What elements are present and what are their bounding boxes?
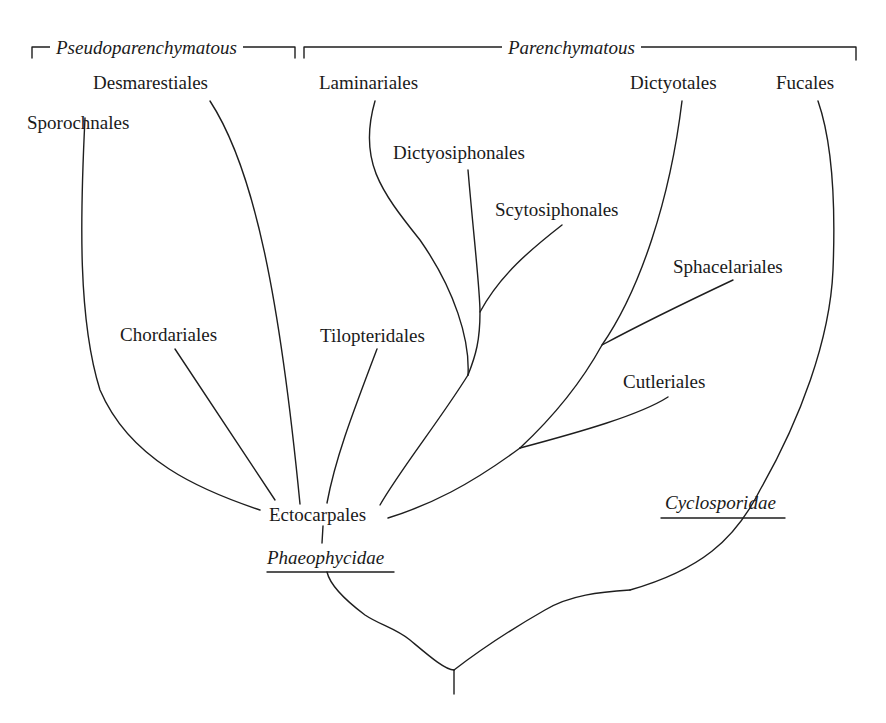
clade-cyclosporidae: Cyclosporidae (665, 493, 776, 512)
node-dictyotales: Dictyotales (630, 73, 717, 92)
node-laminariales: Laminariales (319, 73, 418, 92)
node-fucales: Fucales (776, 73, 834, 92)
node-dictyosiphonales: Dictyosiphonales (393, 143, 525, 162)
branch-sporochnales (82, 118, 260, 510)
node-chordariales: Chordariales (120, 325, 217, 344)
branch-dictyosiphonales (468, 170, 480, 375)
group-label-pseudoparenchymatous: Pseudoparenchymatous (50, 38, 243, 57)
node-scytosiphonales: Scytosiphonales (495, 200, 619, 219)
branch-ectocarpales-to-laminariales-node (380, 375, 468, 505)
branch-cutleriales (520, 397, 668, 448)
node-tilopteridales: Tilopteridales (320, 326, 425, 345)
branch-desmarestiales (210, 101, 300, 504)
group-label-parenchymatous: Parenchymatous (502, 38, 641, 57)
branch-ectocarpales-phaeophycidae (322, 526, 323, 543)
node-ectocarpales: Ectocarpales (269, 505, 366, 524)
branch-root-cyclosporidae (454, 590, 630, 670)
node-desmarestiales: Desmarestiales (93, 73, 208, 92)
node-sporochnales: Sporochnales (27, 113, 129, 132)
branch-dictyotales (520, 101, 682, 448)
node-cutleriales: Cutleriales (623, 372, 705, 391)
clade-phaeophycidae: Phaeophycidae (267, 548, 384, 567)
branch-fucales (630, 101, 834, 590)
branch-tilopteridales (327, 349, 377, 503)
tree-diagram (0, 0, 886, 723)
branch-chordariales (175, 349, 275, 500)
node-sphacelariales: Sphacelariales (673, 257, 783, 276)
branch-root-phaeophycidae (327, 572, 454, 670)
branch-scytosiphonales (480, 225, 562, 312)
branch-ectocarpales-to-dictyotales-node (388, 448, 520, 518)
